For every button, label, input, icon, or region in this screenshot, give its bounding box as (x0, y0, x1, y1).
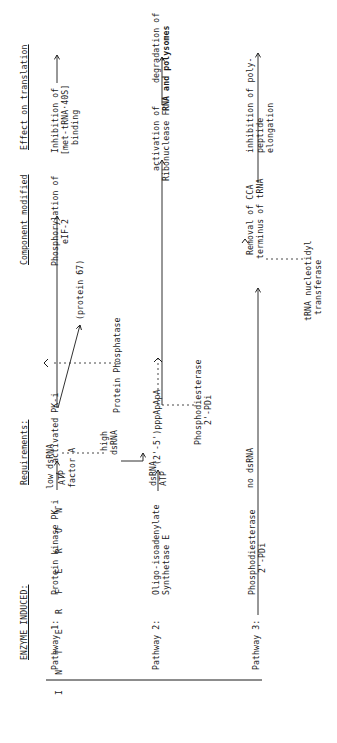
interferon-pathway-diagram: I N T E R F E R O N ENZYME INDUCED: Requ… (0, 0, 337, 743)
pathway-1-label: Pathway 1: (51, 620, 61, 670)
pathway-1-product: activated PK-i (51, 393, 61, 463)
pathway-2-product: (2'-5')pppApApA (153, 390, 163, 465)
header-requirements: Requirements: (20, 420, 30, 485)
pathway-1-protein: (protein 67) (76, 260, 86, 320)
pathway-3-label: Pathway 3: (252, 620, 262, 670)
header-enzyme-induced: ENZYME INDUCED: (20, 585, 30, 660)
pathway-3-component-2: terminus of tRNA (256, 179, 266, 259)
pathway-1-component-2: eIF-2 (61, 219, 71, 244)
pathway-2-pde-2: 2'-PDi (204, 395, 214, 425)
pathway-3-transferase-2: transferase (314, 260, 324, 315)
pathway-1-enzyme: Protein kinase PK-i (51, 499, 61, 595)
pathway-3-enzyme-2: 2'-PDi (258, 543, 268, 573)
header-component-modified: Component modified (20, 174, 30, 265)
pathway-2-component-2: Ribonuclease F (162, 111, 172, 181)
header-effect-on-translation: Effect on translation (20, 44, 30, 150)
pathway-3-effect-3: elongation (266, 103, 276, 153)
pathway-2-req-bottom: ATP (159, 471, 169, 486)
pathway-1-cofactor: factor A (68, 448, 78, 488)
pathway-1-phosphatase: Protein Phosphatase (113, 317, 123, 413)
pathway-1-effect-3: binding (71, 110, 81, 145)
pathway-1-high-dsrna: dsRNA (110, 430, 120, 455)
pathway-2-enzyme-2: Synthetase E (162, 535, 172, 595)
pathway-2-label: Pathway 2: (152, 620, 162, 670)
pathway-2-effect-2: RNA and polysomes (162, 26, 172, 112)
pathway-3-req: no dsRNA (246, 448, 256, 488)
